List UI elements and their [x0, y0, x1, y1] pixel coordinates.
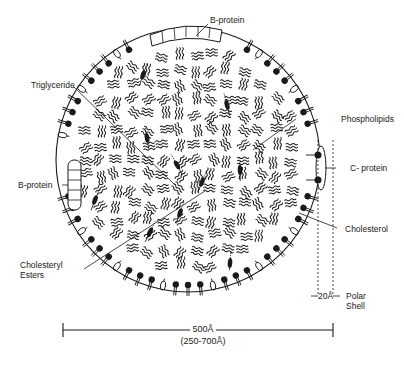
label-cholesteryl-esters-1: Cholesteryl [20, 260, 63, 270]
c-protein [306, 146, 326, 190]
label-b-protein-top: B-protein [210, 15, 245, 25]
label-b-protein-left: B-protein [18, 180, 53, 190]
label-triglyceride: Triglyceride [31, 80, 75, 90]
lipoprotein-illustration [0, 0, 404, 367]
label-polar-shell-1: Polar [346, 291, 366, 301]
scale-diameter: 500Å [180, 324, 226, 335]
polar-shell [57, 39, 319, 296]
label-c-protein: C- protein [350, 163, 387, 173]
b-protein-top [150, 26, 222, 46]
label-cholesterol: Cholesterol [345, 224, 388, 234]
label-phospholipids: Phospholipids [341, 114, 394, 124]
lipoprotein-diagram: B-protein Triglyceride Phospholipids C- … [0, 0, 404, 367]
scale-range: (250-700Å) [165, 336, 241, 347]
label-shell-width: 20Å [318, 291, 333, 301]
core-lipids [78, 47, 307, 274]
label-polar-shell-2: Shell [346, 301, 365, 311]
label-cholesteryl-esters-2: Esters [20, 270, 44, 280]
b-protein-left [68, 160, 81, 210]
